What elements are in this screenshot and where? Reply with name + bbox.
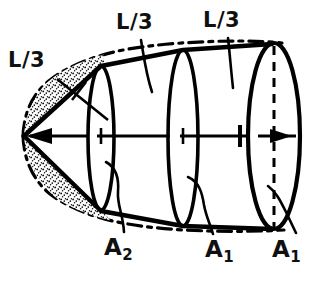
label-area-middle-subscript: 1 bbox=[223, 248, 233, 266]
label-length-right: L/3 bbox=[203, 10, 240, 31]
label-area-forward-letter: A bbox=[104, 234, 122, 260]
label-area-forward: A2 bbox=[104, 236, 133, 263]
body-of-revolution-diagram bbox=[0, 0, 316, 284]
leader-length-middle bbox=[141, 40, 152, 92]
label-area-middle: A1 bbox=[205, 238, 234, 265]
label-area-middle-letter: A bbox=[205, 236, 223, 262]
axis-of-revolution bbox=[26, 125, 296, 147]
label-area-aft: A1 bbox=[272, 238, 301, 265]
axis-arrow-right bbox=[270, 129, 292, 143]
figure-root: L/3 L/3 L/3 A2 A1 A1 bbox=[0, 0, 316, 284]
label-length-middle: L/3 bbox=[116, 12, 153, 33]
label-length-left: L/3 bbox=[8, 50, 45, 71]
label-area-aft-letter: A bbox=[272, 236, 290, 262]
label-area-aft-subscript: 1 bbox=[290, 248, 300, 266]
label-area-forward-subscript: 2 bbox=[122, 246, 132, 264]
